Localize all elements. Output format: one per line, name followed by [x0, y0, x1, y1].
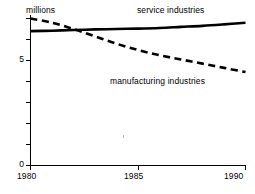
- chart-series-overlay: [0, 0, 255, 194]
- series-label-service-industries: service industries: [137, 6, 204, 15]
- x-tick-label-1990: 1990: [224, 172, 243, 181]
- y-tick-label-5: 5: [8, 55, 24, 64]
- x-tick-label-1980: 1980: [17, 172, 36, 181]
- series-label-manufacturing-industries: manufacturing industries: [110, 77, 205, 86]
- line-chart: millions 5 0 1980 1985 1990 service indu…: [0, 0, 255, 194]
- series-line-manufacturing-industries-path: [31, 19, 246, 73]
- y-axis-unit-label: millions: [26, 6, 55, 15]
- x-tick-label-1985: 1985: [124, 172, 143, 181]
- y-tick-label-0: 0: [8, 160, 24, 169]
- scan-artifact-speck: [123, 135, 124, 138]
